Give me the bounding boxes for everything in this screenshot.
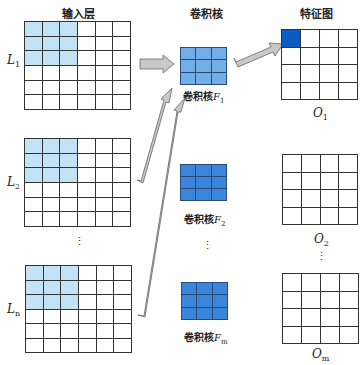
grid-cell [25, 66, 43, 81]
grid-cell [212, 165, 227, 177]
grid-cell [113, 81, 131, 96]
grid-cell [43, 154, 61, 169]
grid-cell [283, 327, 302, 345]
grid-cell [60, 66, 78, 81]
grid-cell [113, 66, 131, 81]
grid-cell [79, 281, 97, 296]
output-grid-o2 [282, 154, 358, 225]
grid-cell [78, 37, 96, 52]
grid-cell [25, 81, 43, 96]
input-ellipsis: ⋮ [74, 240, 80, 244]
grid-cell [302, 173, 321, 191]
input-grid-ln [25, 265, 132, 353]
output-grid-o1 [281, 29, 358, 100]
grid-cell [43, 66, 61, 81]
grid-cell [26, 339, 44, 354]
grid-cell [43, 51, 61, 66]
grid-cell [213, 283, 228, 295]
grid-cell [78, 154, 96, 169]
grid-cell [60, 198, 78, 213]
grid-cell [25, 51, 43, 66]
grid-cell [78, 183, 96, 198]
grid-cell [43, 95, 61, 110]
grid-cell [25, 183, 43, 198]
grid-cell [26, 295, 44, 310]
grid-cell [212, 60, 227, 72]
grid-cell [181, 189, 196, 201]
grid-cell [113, 168, 131, 183]
grid-cell [339, 155, 358, 173]
grid-cell [302, 292, 321, 310]
grid-cell [301, 48, 320, 66]
grid-cell [26, 281, 44, 296]
grid-cell [25, 37, 43, 52]
grid-cell [61, 339, 79, 354]
output-label-om: Om [312, 347, 329, 363]
grid-cell [320, 30, 339, 48]
grid-cell [60, 95, 78, 110]
grid-cell [340, 274, 359, 292]
grid-cell [96, 154, 114, 169]
grid-cell [196, 165, 211, 177]
grid-cell [26, 266, 44, 281]
grid-cell [212, 48, 227, 60]
grid-cell [96, 95, 114, 110]
kernel-grid-f1 [180, 47, 227, 85]
grid-cell [302, 208, 321, 226]
grid-cell [25, 212, 43, 227]
grid-cell [321, 173, 340, 191]
grid-cell [60, 37, 78, 52]
grid-cell [43, 139, 61, 154]
input-grid-l2 [24, 138, 131, 227]
grid-cell [79, 310, 97, 325]
grid-cell [78, 168, 96, 183]
grid-cell [282, 30, 301, 48]
grid-cell [78, 66, 96, 81]
grid-cell [78, 139, 96, 154]
grid-cell [26, 310, 44, 325]
output-grid-om [282, 273, 359, 344]
grid-cell [114, 281, 132, 296]
grid-cell [283, 274, 302, 292]
grid-cell [97, 339, 115, 354]
grid-cell [321, 208, 340, 226]
grid-cell [283, 309, 302, 327]
grid-cell [212, 189, 227, 201]
grid-cell [321, 327, 340, 345]
grid-cell [301, 65, 320, 83]
grid-cell [339, 173, 358, 191]
grid-cell [113, 154, 131, 169]
grid-cell [340, 327, 359, 345]
grid-cell [182, 308, 197, 320]
grid-cell [60, 154, 78, 169]
grid-cell [321, 309, 340, 327]
grid-cell [43, 212, 61, 227]
grid-cell [320, 83, 339, 101]
grid-cell [25, 154, 43, 169]
grid-cell [96, 183, 114, 198]
grid-cell [97, 310, 115, 325]
grid-cell [113, 198, 131, 213]
grid-cell [96, 212, 114, 227]
grid-cell [340, 309, 359, 327]
grid-cell [96, 22, 114, 37]
grid-cell [60, 168, 78, 183]
grid-cell [114, 310, 132, 325]
grid-cell [60, 212, 78, 227]
grid-cell [321, 155, 340, 173]
kernel-grid-fm [181, 282, 228, 320]
grid-cell [282, 48, 301, 66]
grid-cell [181, 73, 196, 85]
grid-cell [26, 324, 44, 339]
grid-cell [78, 22, 96, 37]
grid-cell [302, 190, 321, 208]
kernel-ellipsis: ⋮ [202, 244, 208, 248]
grid-cell [79, 295, 97, 310]
input-grid-l1 [24, 21, 131, 110]
kernel-grid-f2 [180, 164, 227, 201]
arrow-l1-to-f1 [140, 55, 174, 73]
grid-cell [283, 208, 302, 226]
grid-cell [60, 81, 78, 96]
grid-cell [182, 295, 197, 307]
grid-cell [97, 324, 115, 339]
